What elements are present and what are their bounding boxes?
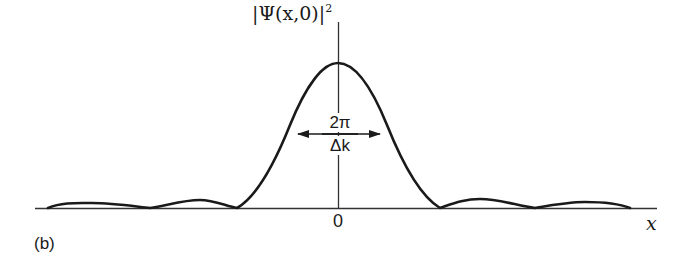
y-axis-label-text: |Ψ(x,0)| (252, 2, 325, 24)
figure-panel-b: |Ψ(x,0)|2 2π Δk 0 x (b) (0, 0, 691, 264)
fraction-bar (322, 133, 358, 135)
x-tick-zero: 0 (333, 211, 343, 232)
y-axis-label: |Ψ(x,0)|2 (252, 2, 332, 24)
panel-label: (b) (34, 234, 55, 254)
width-annotation: 2π Δk (316, 113, 364, 155)
width-numerator: 2π (316, 113, 364, 132)
y-axis-label-exponent: 2 (325, 2, 332, 15)
x-axis-label: x (646, 212, 657, 234)
width-denominator: Δk (316, 136, 364, 155)
